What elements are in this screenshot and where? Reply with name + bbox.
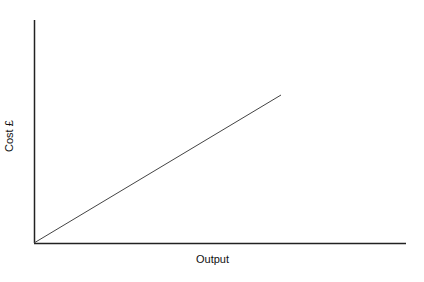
cost-line (34, 95, 281, 243)
chart-canvas (0, 0, 424, 282)
x-axis-label: Output (196, 253, 229, 265)
y-axis-label: Cost £ (3, 112, 15, 152)
